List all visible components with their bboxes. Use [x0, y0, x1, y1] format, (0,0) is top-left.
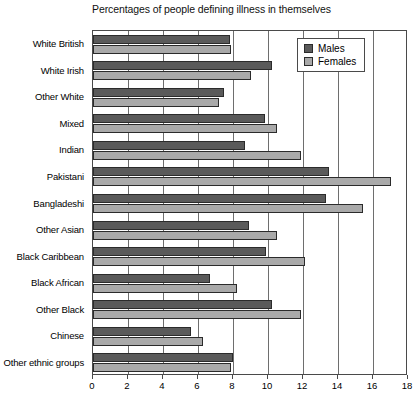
bar-males — [93, 141, 245, 150]
bar-females — [93, 337, 203, 346]
bar-group — [93, 164, 406, 191]
chart-title: Percentages of people defining illness i… — [92, 3, 407, 15]
plot-area — [92, 30, 407, 375]
x-tick-label-8: 8 — [229, 380, 234, 391]
x-tick-label-12: 12 — [297, 380, 308, 391]
x-tick-label-4: 4 — [159, 380, 164, 391]
bar-males — [93, 88, 224, 97]
x-tick-label-10: 10 — [262, 380, 273, 391]
bar-males — [93, 167, 329, 176]
y-axis-label-other-black: Other Black — [36, 303, 84, 314]
bar-group — [93, 190, 406, 217]
bar-males — [93, 114, 265, 123]
bar-males — [93, 274, 210, 283]
x-tick-mark-16 — [372, 375, 373, 379]
bar-females — [93, 151, 301, 160]
y-axis-label-chinese: Chinese — [50, 330, 84, 341]
bar-females — [93, 98, 219, 107]
bar-group — [93, 243, 406, 270]
chart-legend: Males Females — [297, 38, 365, 72]
x-tick-label-6: 6 — [194, 380, 199, 391]
bar-group — [93, 296, 406, 323]
bar-females — [93, 71, 251, 80]
legend-swatch-males-icon — [304, 44, 313, 53]
x-tick-mark-10 — [267, 375, 268, 379]
bar-males — [93, 353, 233, 362]
bar-males — [93, 247, 266, 256]
y-axis-label-black-caribbean: Black Caribbean — [17, 250, 84, 261]
x-tick-label-0: 0 — [89, 380, 94, 391]
x-tick-mark-14 — [337, 375, 338, 379]
bar-group — [93, 111, 406, 138]
x-tick-mark-18 — [407, 375, 408, 379]
bar-males — [93, 194, 326, 203]
y-axis-label-pakistani: Pakistani — [47, 170, 84, 181]
legend-item-females: Females — [304, 56, 356, 67]
bar-females — [93, 124, 277, 133]
chart-container: Percentages of people defining illness i… — [0, 0, 420, 411]
x-tick-mark-8 — [232, 375, 233, 379]
x-tick-mark-2 — [127, 375, 128, 379]
legend-label-males: Males — [318, 43, 345, 54]
bar-males — [93, 300, 272, 309]
y-axis-label-other-white: Other White — [35, 91, 84, 102]
y-axis-label-white-irish: White Irish — [41, 64, 84, 75]
x-tick-label-18: 18 — [402, 380, 413, 391]
y-axis-label-other-ethnic-groups: Other ethnic groups — [3, 356, 84, 367]
bar-females — [93, 363, 231, 372]
bar-group — [93, 323, 406, 350]
x-tick-label-2: 2 — [124, 380, 129, 391]
bar-group — [93, 270, 406, 297]
x-tick-label-14: 14 — [332, 380, 343, 391]
bar-males — [93, 35, 230, 44]
bar-group — [93, 217, 406, 244]
bar-males — [93, 327, 191, 336]
y-axis-label-indian: Indian — [59, 144, 84, 155]
legend-label-females: Females — [318, 56, 356, 67]
y-axis-label-mixed: Mixed — [59, 117, 84, 128]
bar-group — [93, 137, 406, 164]
bar-females — [93, 284, 237, 293]
bar-females — [93, 257, 305, 266]
bar-males — [93, 61, 272, 70]
x-axis-ticks: 024681012141618 — [92, 375, 407, 405]
x-tick-mark-6 — [197, 375, 198, 379]
y-axis-label-other-asian: Other Asian — [36, 224, 84, 235]
bar-females — [93, 204, 363, 213]
bar-females — [93, 177, 391, 186]
bar-males — [93, 221, 249, 230]
x-tick-mark-12 — [302, 375, 303, 379]
bar-females — [93, 45, 231, 54]
x-tick-mark-4 — [162, 375, 163, 379]
x-tick-mark-0 — [92, 375, 93, 379]
y-axis-category-labels: White BritishWhite IrishOther WhiteMixed… — [0, 30, 88, 375]
bar-rows — [93, 31, 406, 374]
bar-group — [93, 349, 406, 376]
y-axis-label-white-british: White British — [33, 38, 84, 49]
y-axis-label-black-african: Black African — [31, 277, 84, 288]
x-tick-label-16: 16 — [367, 380, 378, 391]
y-axis-label-bangladeshi: Bangladeshi — [33, 197, 84, 208]
bar-group — [93, 84, 406, 111]
legend-item-males: Males — [304, 43, 356, 54]
bar-females — [93, 310, 301, 319]
legend-swatch-females-icon — [304, 57, 313, 66]
bar-females — [93, 231, 277, 240]
